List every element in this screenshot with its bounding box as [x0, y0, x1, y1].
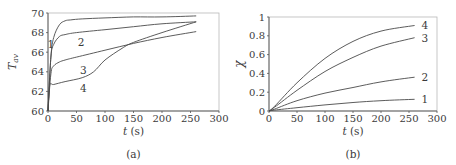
series-label-3: 3 — [80, 64, 87, 76]
y-tick-label: 1 — [259, 12, 265, 23]
chart-panel-a: 050100150200250300606264666870t (s)Tav(a… — [6, 8, 229, 161]
x-tick-label: 300 — [209, 113, 228, 124]
plot-frame — [269, 17, 437, 111]
y-tick-label: 66 — [31, 47, 44, 58]
series-line-4 — [269, 26, 415, 112]
y-tick-label: 0.6 — [249, 49, 265, 60]
x-tick-label: 200 — [152, 113, 171, 124]
series-label-2: 2 — [78, 36, 85, 48]
x-tick-label: 0 — [266, 113, 272, 124]
series-label-3: 3 — [422, 32, 429, 44]
panel-label: (b) — [346, 148, 361, 160]
y-tick-label: 0.2 — [249, 87, 265, 98]
panel-label: (a) — [126, 148, 140, 160]
series-label-1: 1 — [48, 38, 55, 50]
x-tick-label: 0 — [45, 113, 51, 124]
series-label-1: 1 — [422, 93, 429, 105]
x-tick-label: 50 — [291, 113, 304, 124]
y-tick-label: 0 — [259, 106, 265, 117]
x-tick-label: 200 — [371, 113, 390, 124]
y-tick-label: 0.8 — [249, 30, 265, 41]
figure: 050100150200250300606264666870t (s)Tav(a… — [0, 0, 456, 165]
series-line-1 — [269, 99, 415, 111]
series-line-3 — [48, 32, 196, 111]
y-tick-label: 64 — [31, 66, 44, 77]
x-axis-label: t (s) — [123, 125, 144, 137]
y-tick-label: 62 — [31, 86, 44, 97]
y-tick-label: 0.4 — [249, 68, 265, 79]
series-label-4: 4 — [80, 82, 87, 94]
y-tick-label: 68 — [31, 27, 44, 38]
y-axis-label: χ — [232, 60, 246, 69]
x-tick-label: 50 — [70, 113, 83, 124]
x-tick-label: 250 — [181, 113, 200, 124]
x-tick-label: 100 — [315, 113, 334, 124]
chart-panel-b: 05010015020025030000.20.40.60.81t (s)χ(b… — [232, 12, 447, 161]
series-line-2 — [269, 77, 415, 111]
x-tick-label: 250 — [399, 113, 418, 124]
x-tick-label: 100 — [95, 113, 114, 124]
y-tick-label: 70 — [31, 8, 44, 19]
x-tick-label: 150 — [343, 113, 362, 124]
plot-frame — [48, 13, 219, 111]
series-label-4: 4 — [422, 19, 429, 31]
x-tick-label: 300 — [427, 113, 446, 124]
y-tick-label: 60 — [31, 106, 44, 117]
series-label-2: 2 — [422, 71, 429, 83]
x-tick-label: 150 — [124, 113, 143, 124]
series-line-1 — [48, 16, 196, 111]
x-axis-label: t (s) — [342, 125, 363, 137]
y-axis-label: Tav — [6, 53, 20, 70]
